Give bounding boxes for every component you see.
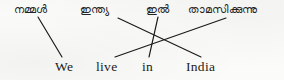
target-word-4: India: [186, 60, 215, 74]
word-order-matching-figure: നമ്മൾ ഇന്ത്യ ഇൽ താമസിക്കുന്നു We live in…: [0, 0, 284, 80]
target-word-1: We: [55, 60, 73, 74]
target-word-2: live: [96, 60, 117, 74]
target-word-3: in: [142, 60, 153, 74]
connector-line-1: [38, 17, 62, 57]
connector-line-3: [149, 17, 158, 57]
